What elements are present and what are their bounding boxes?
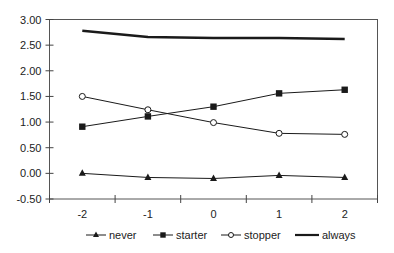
legend-item-always: always xyxy=(295,229,356,241)
x-tick-label: 1 xyxy=(276,208,282,220)
legend-item-starter: starter xyxy=(153,229,208,241)
legend-label: starter xyxy=(176,229,208,241)
square-marker-icon xyxy=(79,123,85,129)
triangle-marker-icon xyxy=(144,173,151,180)
x-tick-label: 2 xyxy=(342,208,348,220)
x-tick-label: 0 xyxy=(210,208,216,220)
triangle-marker-icon xyxy=(79,169,86,176)
series-never xyxy=(79,169,348,181)
triangle-marker-icon xyxy=(210,174,217,181)
square-marker-icon xyxy=(342,87,348,93)
series-layer xyxy=(79,31,348,181)
x-tick-label: -1 xyxy=(143,208,153,220)
square-marker-icon xyxy=(276,90,282,96)
circle-marker-icon xyxy=(79,93,85,99)
circle-marker-icon xyxy=(229,233,234,238)
y-axis: 3.002.502.001.501.000.500.00-0.50 xyxy=(16,14,53,206)
line-chart: 3.002.502.001.501.000.500.00-0.50 -2-101… xyxy=(0,0,394,253)
y-tick-label: 1.50 xyxy=(20,90,41,102)
circle-marker-icon xyxy=(342,131,348,137)
legend-item-never: never xyxy=(86,229,137,241)
x-tick-label: -2 xyxy=(77,208,87,220)
legend-label: stopper xyxy=(244,229,281,241)
triangle-marker-icon xyxy=(341,173,348,180)
y-tick-label: 1.00 xyxy=(20,116,41,128)
series-always xyxy=(82,31,344,39)
y-tick-label: 0.00 xyxy=(20,167,41,179)
series-line xyxy=(82,96,344,134)
series-stopper xyxy=(79,93,347,137)
square-marker-icon xyxy=(210,103,216,109)
y-tick-label: 2.00 xyxy=(20,65,41,77)
circle-marker-icon xyxy=(145,107,151,113)
legend-label: always xyxy=(322,229,356,241)
series-line xyxy=(82,31,344,39)
square-marker-icon xyxy=(160,232,165,237)
y-tick-label: 3.00 xyxy=(20,14,41,26)
y-tick-label: 0.50 xyxy=(20,142,41,154)
circle-marker-icon xyxy=(276,130,282,136)
legend-label: never xyxy=(109,229,137,241)
y-tick-label: 2.50 xyxy=(20,39,41,51)
triangle-marker-icon xyxy=(276,171,283,178)
chart-legend: neverstarterstopperalways xyxy=(0,225,394,245)
triangle-marker-icon xyxy=(93,232,99,238)
circle-marker-icon xyxy=(211,120,217,126)
legend-item-stopper: stopper xyxy=(221,229,281,241)
y-tick-label: -0.50 xyxy=(16,193,41,205)
square-marker-icon xyxy=(145,113,151,119)
